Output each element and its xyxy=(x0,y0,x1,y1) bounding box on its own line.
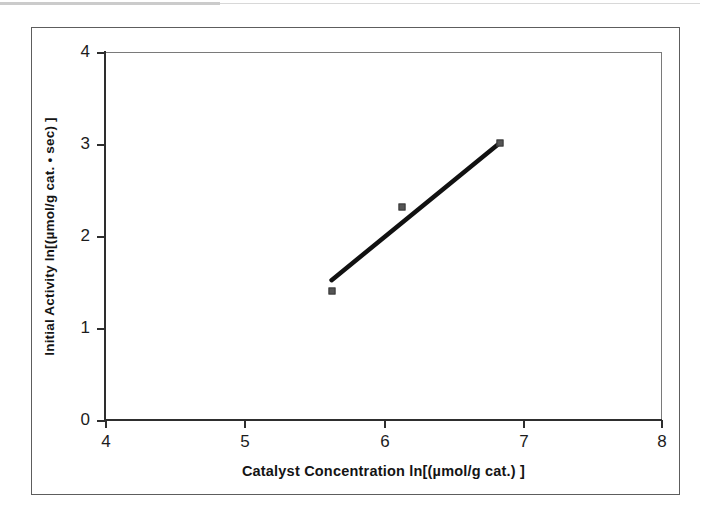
chart-canvas: 0 1 2 3 4 4 5 6 7 8 Catalyst Concentrati… xyxy=(0,0,718,516)
y-axis-title: Initial Activity ln[(µmol/g cat. • sec) … xyxy=(38,52,60,420)
y-axis-title-text: Initial Activity ln[(µmol/g cat. • sec) … xyxy=(42,117,57,356)
data-point-marker xyxy=(399,203,406,210)
data-point-marker xyxy=(328,288,335,295)
data-point-marker xyxy=(496,140,503,147)
trendline-layer xyxy=(0,0,718,516)
trend-line xyxy=(332,143,500,280)
x-axis-title: Catalyst Concentration ln[(µmol/g cat.) … xyxy=(105,463,662,479)
